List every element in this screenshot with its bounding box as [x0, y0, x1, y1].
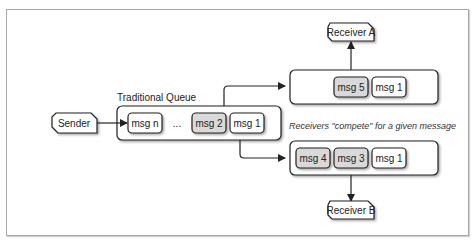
queue-message: msg 1	[230, 113, 264, 133]
traditional-queue-label: Traditional Queue	[117, 92, 197, 103]
receiver-b-message: msg 3	[334, 148, 368, 168]
queue-diagram: Sender Traditional Queue msg n ... msg 2…	[0, 0, 476, 242]
queue-message: msg 2	[192, 113, 226, 133]
compete-caption: Receivers "compete" for a given message	[289, 121, 456, 131]
receiver-a-message: msg 5	[334, 77, 368, 97]
sender-node: Sender	[52, 113, 97, 133]
receiver-b-label: Receiver B	[327, 205, 376, 216]
sender-label: Sender	[58, 118, 91, 129]
svg-text:msg 4: msg 4	[299, 153, 327, 164]
svg-text:msg 5: msg 5	[337, 82, 365, 93]
svg-text:msg 3: msg 3	[337, 153, 365, 164]
receiver-a-label: Receiver A	[327, 27, 376, 38]
queue-to-receiver-b-queue-arrow	[240, 140, 285, 158]
svg-text:msg 1: msg 1	[233, 118, 261, 129]
receiver-b-node: Receiver B	[327, 201, 376, 219]
queue-message-list: msg n ... msg 2 msg 1	[128, 113, 264, 133]
receiver-b-message: msg 4	[296, 148, 330, 168]
receiver-a-node: Receiver A	[327, 23, 376, 41]
queue-message: msg n	[128, 113, 162, 133]
svg-text:msg 2: msg 2	[195, 118, 223, 129]
svg-text:msg 1: msg 1	[375, 82, 403, 93]
queue-ellipsis: ...	[173, 118, 181, 129]
queue-to-receiver-a-queue-arrow	[224, 86, 285, 106]
receiver-a-message: msg 1	[372, 77, 406, 97]
receiver-b-message: msg 1	[372, 148, 406, 168]
receiver-b-message-list: msg 4 msg 3 msg 1	[296, 148, 406, 168]
svg-text:msg n: msg n	[131, 118, 158, 129]
svg-text:msg 1: msg 1	[375, 153, 403, 164]
